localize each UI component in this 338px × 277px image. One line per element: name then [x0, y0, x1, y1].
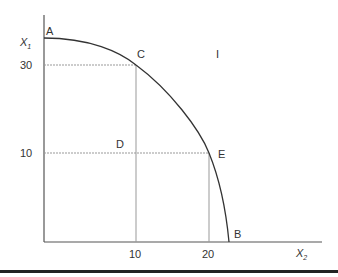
- x-tick-10: 10: [129, 248, 141, 260]
- y-tick-30: 30: [20, 59, 32, 71]
- ppf-diagram: A C D E B I X1 X2 30 10 10 20: [0, 0, 338, 277]
- point-d-label: D: [116, 138, 124, 150]
- point-b-label: B: [234, 228, 241, 240]
- bottom-rule: [0, 270, 338, 273]
- y-axis-label: X1: [19, 36, 31, 50]
- x-axis-label: X2: [295, 247, 307, 261]
- x-tick-20: 20: [202, 248, 214, 260]
- point-a-label: A: [46, 25, 54, 37]
- point-i-label: I: [216, 48, 219, 60]
- y-tick-10: 10: [20, 147, 32, 159]
- point-c-label: C: [137, 48, 145, 60]
- point-e-label: E: [218, 148, 225, 160]
